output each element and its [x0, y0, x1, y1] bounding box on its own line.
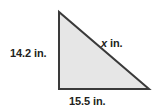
hypotenuse-label: x in.	[101, 38, 123, 49]
hypotenuse-unit: in.	[107, 37, 123, 49]
vertical-leg-label: 14.2 in.	[10, 48, 47, 59]
horizontal-leg-label: 15.5 in.	[69, 96, 106, 107]
right-triangle-polygon	[59, 12, 149, 89]
triangle-figure: 14.2 in. 15.5 in. x in.	[0, 0, 154, 111]
